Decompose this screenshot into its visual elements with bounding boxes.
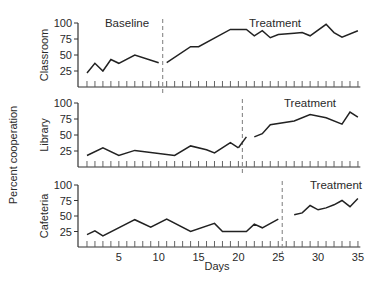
x-axis-title: Days (204, 260, 230, 272)
y-tick-label: 75 (60, 33, 72, 45)
panel-name-label: Cafeteria (38, 193, 50, 239)
panel-library: 255075100LibraryTreatment (38, 97, 360, 173)
x-tick-label: 10 (153, 251, 165, 263)
x-tick-label: 5 (116, 251, 122, 263)
y-tick-label: 25 (60, 65, 72, 77)
panel-cafeteria: 255075100CafeteriaTreatment5101520253035 (38, 179, 364, 263)
panel-name-label: Classroom (38, 29, 50, 82)
y-tick-label: 50 (60, 129, 72, 141)
baseline-label: Baseline (105, 17, 149, 29)
y-axis-title: Percent cooperation (7, 106, 19, 204)
x-tick-label: 20 (232, 251, 244, 263)
y-tick-label: 100 (54, 97, 72, 109)
y-tick-label: 50 (60, 49, 72, 61)
data-series-baseline (87, 55, 159, 73)
y-tick-label: 25 (60, 226, 72, 238)
data-series-treatment (254, 112, 358, 137)
x-tick-label: 35 (352, 251, 364, 263)
data-series-baseline (87, 219, 278, 236)
data-series-baseline (87, 143, 238, 156)
chart-panels: 255075100ClassroomBaselineTreatment25507… (38, 17, 364, 263)
y-tick-label: 50 (60, 210, 72, 222)
treatment-label: Treatment (249, 17, 302, 29)
treatment-label: Treatment (284, 97, 337, 109)
multiple-baseline-chart: 255075100ClassroomBaselineTreatment25507… (0, 0, 381, 284)
y-tick-label: 100 (54, 179, 72, 191)
panel-classroom: 255075100ClassroomBaselineTreatment (38, 17, 360, 93)
treatment-label: Treatment (310, 179, 363, 191)
data-series-treatment (167, 24, 358, 62)
x-tick-label: 15 (192, 251, 204, 263)
y-tick-label: 100 (54, 17, 72, 29)
x-tick-label: 30 (312, 251, 324, 263)
data-series-baseline-end (238, 137, 246, 148)
y-tick-label: 25 (60, 145, 72, 157)
data-series-treatment (294, 199, 358, 215)
y-tick-label: 75 (60, 195, 72, 207)
x-tick-label: 25 (272, 251, 284, 263)
panel-name-label: Library (38, 118, 50, 152)
y-tick-label: 75 (60, 113, 72, 125)
